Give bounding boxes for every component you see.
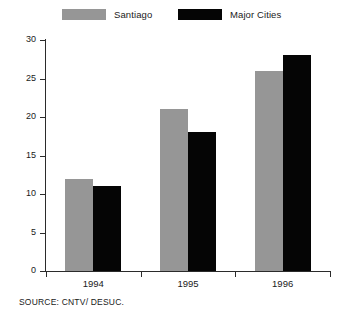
y-axis-tick-label: 25 — [10, 74, 36, 83]
chart-legend: Santiago Major Cities — [0, 6, 344, 28]
x-axis-tick — [330, 272, 331, 277]
x-axis-tick — [46, 272, 47, 277]
bar-major-cities-1995 — [188, 132, 216, 271]
bar-major-cities-1996 — [283, 55, 311, 271]
legend-item-major-cities: Major Cities — [178, 6, 281, 22]
source-note: SOURCE: CNTV/ DESUC. — [19, 297, 124, 307]
x-axis-tick — [235, 272, 236, 277]
x-axis-tick — [141, 272, 142, 277]
bar-santiago-1995 — [160, 109, 188, 271]
legend-swatch-santiago — [62, 9, 106, 20]
legend-label-santiago: Santiago — [114, 9, 152, 20]
x-axis-category-label: 1996 — [253, 279, 313, 289]
bar-santiago-1994 — [65, 179, 93, 271]
y-axis-tick-label: 5 — [10, 228, 36, 237]
plot-area — [46, 40, 330, 271]
x-axis-line — [45, 271, 331, 272]
x-axis-category-label: 1995 — [158, 279, 218, 289]
y-axis-tick-label: 0 — [10, 266, 36, 275]
y-axis-tick-label: 30 — [10, 35, 36, 44]
y-axis-tick-label: 20 — [10, 112, 36, 121]
bar-santiago-1996 — [255, 71, 283, 271]
legend-swatch-major-cities — [178, 9, 222, 20]
x-axis-category-label: 1994 — [63, 279, 123, 289]
legend-label-major-cities: Major Cities — [230, 9, 281, 20]
y-axis-tick-label: 10 — [10, 189, 36, 198]
bar-major-cities-1994 — [93, 186, 121, 271]
bar-chart-figure: Santiago Major Cities 051015202530 19941… — [0, 0, 344, 315]
legend-item-santiago: Santiago — [62, 6, 152, 22]
y-axis-tick-label: 15 — [10, 151, 36, 160]
